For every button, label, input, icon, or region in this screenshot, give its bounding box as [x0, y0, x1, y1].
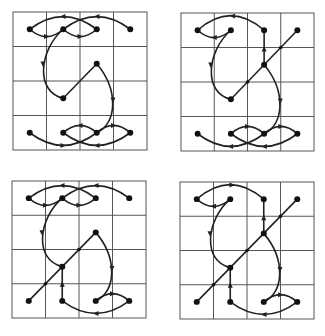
node-dot — [227, 196, 233, 202]
node-dot — [228, 131, 234, 137]
grid-diagram — [181, 13, 314, 151]
arrow-icon — [93, 311, 99, 316]
node-dot — [261, 196, 267, 202]
arrow-icon — [230, 182, 236, 187]
grid-diagram — [180, 182, 314, 319]
intersection-dot — [77, 248, 81, 252]
node-dot — [94, 130, 100, 136]
node-dot — [261, 230, 267, 236]
edge-path — [264, 233, 280, 302]
node-dot — [195, 27, 201, 33]
arrow-icon — [60, 14, 66, 19]
node-dot — [261, 131, 267, 137]
arrow-icon — [94, 14, 100, 19]
node-dot — [94, 26, 100, 32]
node-dot — [59, 195, 65, 201]
arrow-icon — [94, 143, 100, 148]
node-dot — [194, 299, 200, 305]
diagram-panel-top-right — [181, 13, 314, 151]
grid-diagram — [12, 181, 146, 318]
arrow-icon — [61, 143, 67, 148]
intersection-dot — [279, 214, 283, 218]
node-dot — [195, 131, 201, 137]
diagram-panel-bottom-left — [12, 181, 146, 318]
arrow-icon — [261, 144, 266, 149]
edge-path — [96, 232, 112, 301]
node-dot — [194, 196, 200, 202]
node-dot — [261, 27, 267, 33]
node-dot — [26, 298, 32, 304]
node-dot — [294, 131, 300, 137]
arrow-icon — [278, 267, 283, 272]
node-dot — [94, 61, 100, 67]
arrow-icon — [262, 46, 267, 52]
node-dot — [294, 299, 300, 305]
intersection-dot — [279, 46, 283, 50]
node-dot — [227, 299, 233, 305]
arrow-icon — [228, 144, 233, 149]
node-dot — [93, 298, 99, 304]
node-dot — [27, 26, 33, 32]
node-dot — [126, 195, 132, 201]
node-dot — [93, 195, 99, 201]
arrow-icon — [110, 266, 115, 271]
node-dot — [261, 62, 267, 68]
node-dot — [59, 298, 65, 304]
grid-diagram — [13, 12, 147, 150]
node-dot — [294, 27, 300, 33]
node-dot — [127, 26, 133, 32]
node-dot — [228, 96, 234, 102]
node-dot — [60, 26, 66, 32]
diagram-panel-bottom-right — [180, 182, 314, 319]
node-dot — [60, 95, 66, 101]
node-dot — [26, 195, 32, 201]
node-dot — [261, 299, 267, 305]
arrow-icon — [93, 183, 99, 188]
node-dot — [60, 130, 66, 136]
node-dot — [59, 264, 65, 270]
intersection-dot — [212, 283, 216, 287]
node-dot — [227, 265, 233, 271]
edge-path — [264, 65, 280, 134]
intersection-dot — [246, 80, 250, 84]
arrow-icon — [230, 14, 235, 19]
diagram-panel-top-left — [13, 12, 147, 150]
intersection-dot — [44, 282, 48, 286]
node-dot — [228, 27, 234, 33]
node-dot — [126, 298, 132, 304]
node-dot — [127, 130, 133, 136]
edge-path — [97, 64, 113, 133]
node-dot — [93, 229, 99, 235]
arrow-icon — [59, 183, 65, 188]
arrow-icon — [111, 98, 116, 104]
arrow-icon — [261, 312, 267, 317]
intersection-dot — [245, 249, 249, 253]
arrow-icon — [278, 99, 283, 105]
node-dot — [294, 196, 300, 202]
arrow-icon — [261, 215, 266, 220]
node-dot — [27, 130, 33, 136]
